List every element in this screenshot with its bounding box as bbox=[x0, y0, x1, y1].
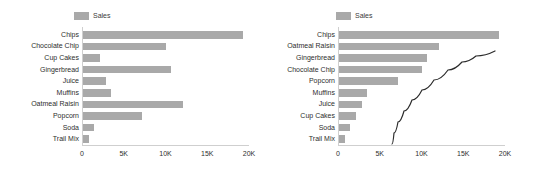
bar bbox=[338, 31, 499, 39]
bar bbox=[82, 89, 111, 97]
y-axis-line bbox=[82, 27, 83, 145]
bar bbox=[338, 54, 427, 62]
x-axis-line bbox=[82, 145, 249, 146]
category-label: Juice bbox=[63, 77, 79, 85]
category-label: Popcorn bbox=[309, 77, 335, 85]
category-label: Chocolate Chip bbox=[287, 66, 335, 74]
bar bbox=[82, 101, 183, 109]
bar bbox=[82, 54, 100, 62]
x-tick-label: 5K bbox=[366, 150, 394, 158]
bar bbox=[338, 77, 398, 85]
category-label: Cup Cakes bbox=[44, 54, 79, 62]
category-label: Muffins bbox=[57, 89, 79, 97]
x-tick-label: 20K bbox=[235, 150, 263, 158]
x-tick-label: 5K bbox=[110, 150, 138, 158]
x-tick-label: 0 bbox=[68, 150, 96, 158]
bar bbox=[338, 66, 422, 74]
plot-area-right: ChipsOatmeal RaisinGingerbreadChocolate … bbox=[268, 0, 536, 172]
category-label: Chips bbox=[61, 31, 79, 39]
bar bbox=[338, 112, 356, 120]
bar bbox=[82, 43, 166, 51]
category-label: Cup Cakes bbox=[300, 112, 335, 120]
bar bbox=[338, 135, 345, 143]
x-tick-label: 20K bbox=[491, 150, 519, 158]
category-label: Gingerbread bbox=[40, 66, 79, 74]
x-axis-line bbox=[338, 145, 505, 146]
category-label: Trail Mix bbox=[309, 135, 335, 143]
y-axis-line bbox=[338, 27, 339, 145]
chart-page: Sales ChipsChocolate ChipCup CakesGinger… bbox=[0, 0, 536, 172]
bar bbox=[338, 89, 367, 97]
bar bbox=[338, 101, 362, 109]
category-label: Chips bbox=[317, 31, 335, 39]
x-tick-label: 15K bbox=[193, 150, 221, 158]
x-tick-label: 15K bbox=[449, 150, 477, 158]
category-label: Juice bbox=[319, 100, 335, 108]
chart-panel-right: Sales ChipsOatmeal RaisinGingerbreadChoc… bbox=[268, 0, 536, 172]
bar bbox=[82, 31, 243, 39]
bar bbox=[338, 43, 439, 51]
bar bbox=[338, 124, 350, 132]
category-label: Soda bbox=[63, 124, 79, 132]
category-label: Oatmeal Raisin bbox=[31, 100, 79, 108]
plot-area-left: ChipsChocolate ChipCup CakesGingerbreadJ… bbox=[0, 0, 268, 172]
category-label: Popcorn bbox=[53, 112, 79, 120]
category-label: Trail Mix bbox=[53, 135, 79, 143]
category-label: Gingerbread bbox=[296, 54, 335, 62]
chart-panel-left: Sales ChipsChocolate ChipCup CakesGinger… bbox=[0, 0, 268, 172]
bar bbox=[82, 124, 94, 132]
cumulative-curve-overlay bbox=[268, 0, 536, 172]
category-label: Soda bbox=[319, 124, 335, 132]
category-label: Chocolate Chip bbox=[31, 42, 79, 50]
bar bbox=[82, 77, 106, 85]
category-label: Oatmeal Raisin bbox=[287, 42, 335, 50]
x-tick-label: 10K bbox=[408, 150, 436, 158]
bar bbox=[82, 135, 89, 143]
bar bbox=[82, 112, 142, 120]
x-tick-label: 0 bbox=[324, 150, 352, 158]
category-label: Muffins bbox=[313, 89, 335, 97]
x-tick-label: 10K bbox=[152, 150, 180, 158]
bar bbox=[82, 66, 171, 74]
